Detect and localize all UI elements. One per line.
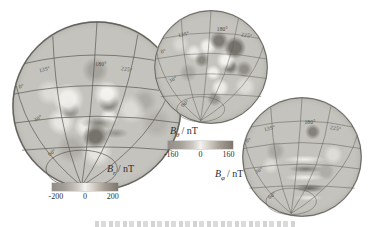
- figure: 135° 180° 225° 0° 30° 60° 135° 180° 225°…: [0, 0, 371, 227]
- meridian-label: 180°: [95, 62, 106, 68]
- field-label-bphi: Bφ/ nT: [215, 168, 243, 182]
- colorbar-btheta: -160 0 160: [168, 141, 233, 161]
- field-unit: / nT: [118, 163, 134, 174]
- field-unit: / nT: [227, 168, 243, 179]
- field-subscript: φ: [221, 174, 225, 182]
- field-subscript: θ: [176, 131, 179, 139]
- colorbar-tick: -160: [164, 150, 179, 159]
- field-subscript: r: [113, 169, 116, 177]
- meridian-label: 180°: [304, 120, 315, 126]
- colorbar-br-gradient: [52, 183, 118, 191]
- globe-bphi-graticule: [242, 97, 362, 217]
- field-unit: / nT: [182, 125, 198, 136]
- globe-bphi: 135° 180° 225° 0° 30° 60°: [242, 97, 362, 217]
- colorbar-tick: 200: [107, 192, 119, 201]
- field-label-btheta: Bθ/ nT: [170, 125, 198, 139]
- caption-cropped-text: [95, 221, 295, 227]
- colorbar-tick: 0: [83, 192, 87, 201]
- colorbar-btheta-gradient: [168, 141, 233, 149]
- meridian-label: 180°: [217, 27, 228, 33]
- colorbar-br: -200 0 200: [52, 183, 118, 203]
- colorbar-tick: 0: [199, 150, 203, 159]
- colorbar-tick: 160: [222, 150, 234, 159]
- field-label-br: Br/ nT: [107, 163, 134, 177]
- colorbar-tick: -200: [49, 192, 64, 201]
